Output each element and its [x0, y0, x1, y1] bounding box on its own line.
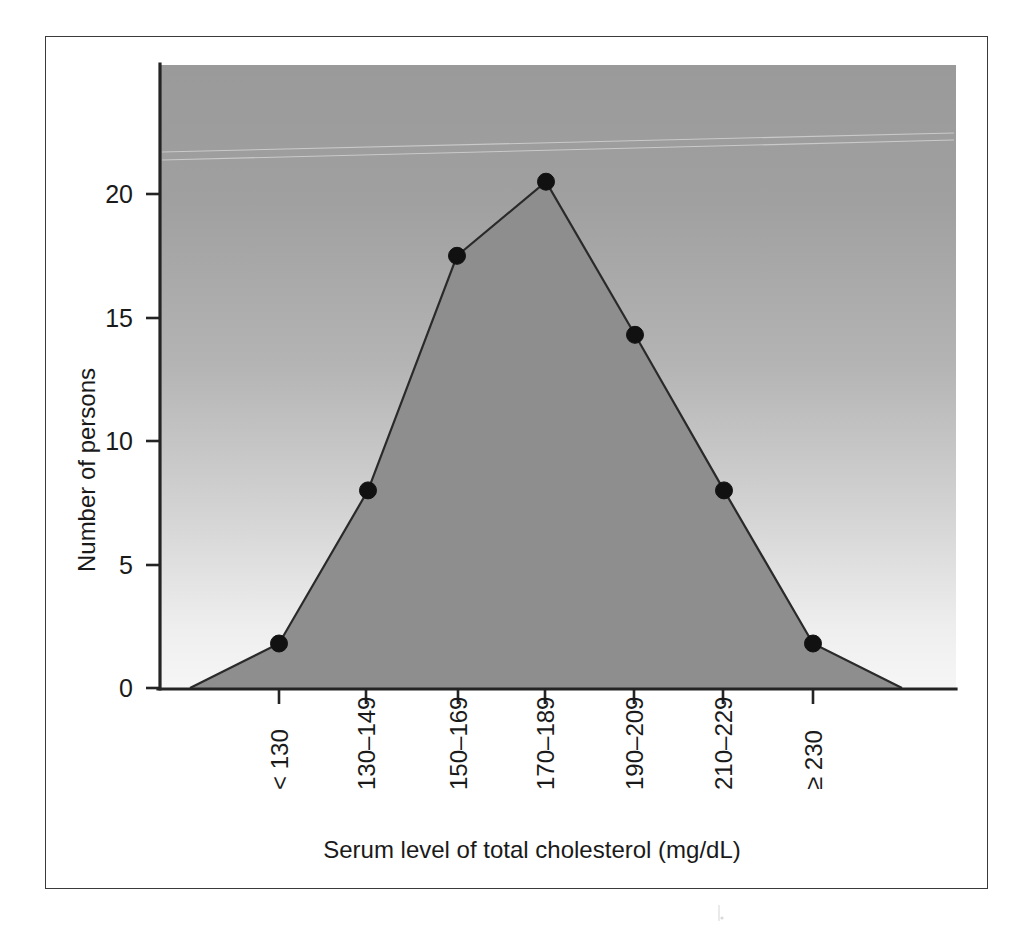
x-tick-label-lt130: < 130	[266, 729, 293, 790]
data-point	[716, 482, 733, 499]
x-tick-label-190-209: 190–209	[621, 697, 648, 790]
chart-canvas: 0 5 10 15 20 Number of persons < 130 130…	[0, 0, 1012, 951]
x-tick-label-170-189: 170–189	[532, 697, 559, 790]
x-tick-label-130-149: 130–149	[353, 697, 380, 790]
y-tick-label-15: 15	[105, 304, 133, 332]
y-tick-label-10: 10	[105, 427, 133, 455]
data-point	[538, 173, 555, 190]
y-tick-label-20: 20	[105, 180, 133, 208]
y-tick-label-5: 5	[119, 551, 133, 579]
x-axis-title: Serum level of total cholesterol (mg/dL)	[323, 836, 741, 863]
y-axis-ticks	[146, 194, 160, 688]
y-tick-label-0: 0	[119, 674, 133, 702]
x-tick-label-gte230: ≥ 230	[800, 730, 827, 790]
data-point	[627, 326, 644, 343]
x-tick-label-210-229: 210–229	[710, 697, 737, 790]
data-point	[360, 482, 377, 499]
y-axis-title: Number of persons	[73, 368, 100, 572]
data-point	[271, 635, 288, 652]
figure-root: 0 5 10 15 20 Number of persons < 130 130…	[0, 0, 1012, 951]
data-point	[449, 247, 466, 264]
data-point	[805, 635, 822, 652]
x-tick-label-150-169: 150–169	[445, 697, 472, 790]
